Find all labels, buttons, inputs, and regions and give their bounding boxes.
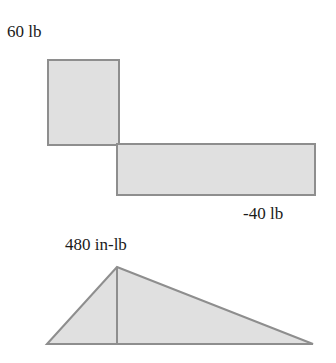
shear-negative-block [117,144,315,195]
shear-positive-block [48,60,119,145]
moment-triangle [47,267,313,344]
diagram-canvas [0,0,336,363]
moment-max-label: 480 in-lb [65,235,127,255]
shear-positive-label: 60 lb [7,22,41,42]
shear-negative-label: -40 lb [243,204,283,224]
